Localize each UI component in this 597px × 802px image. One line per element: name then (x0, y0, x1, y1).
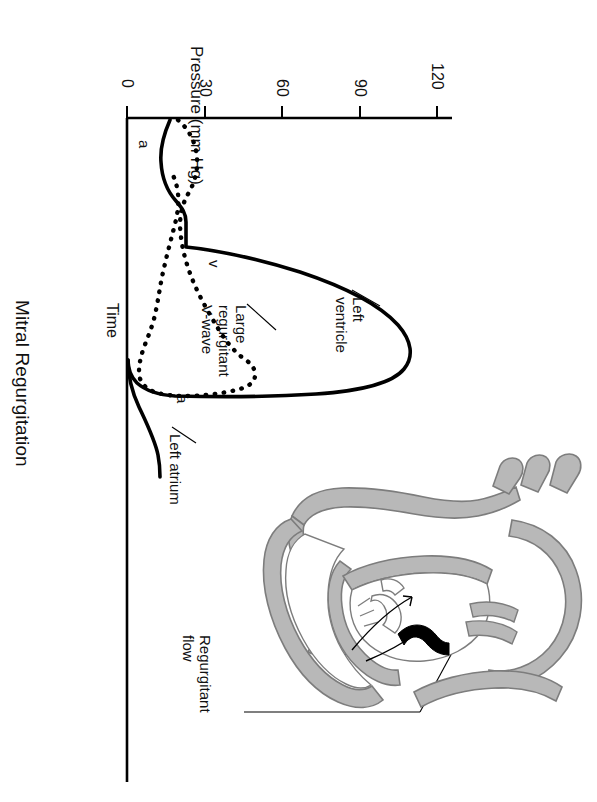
great-vessel-branch-3 (550, 454, 581, 493)
descending-vessel-lower (414, 671, 562, 707)
leader-left-ventricle (352, 290, 380, 306)
axis-group (127, 106, 452, 782)
leader-left-atrium (172, 427, 196, 443)
leader-large-v-wave (247, 304, 276, 330)
curve-left-ventricle (128, 120, 410, 397)
great-vessel-branch-2 (521, 455, 550, 492)
figure-canvas: Mitral Regurgitation Pressure (mm Hg) 0 … (0, 0, 597, 802)
great-vessel-branch-1 (493, 458, 523, 494)
left-atrium-chamber (350, 573, 490, 661)
aortic-arch-wall (292, 487, 520, 525)
curve-left-atrium (139, 120, 255, 396)
heart-anatomy-diagram (263, 454, 581, 707)
figure-graphics (0, 0, 597, 802)
